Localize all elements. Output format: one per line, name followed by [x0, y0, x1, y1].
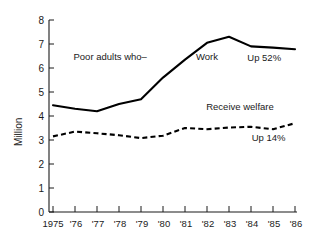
annotation-receive-welfare: Receive welfare: [206, 101, 274, 112]
chart-svg: Million 0 1 2 3 4 5 6 7 8: [0, 0, 312, 242]
y-tick-label-7: 7: [38, 39, 44, 50]
x-tick-label-1981: '81: [180, 218, 192, 229]
x-tick-label-1984: '84: [246, 218, 258, 229]
x-tick-label-1975: 1975: [42, 218, 63, 229]
y-tick-label-1: 1: [38, 183, 44, 194]
y-tick-label-4: 4: [38, 111, 44, 122]
x-tick-label-1977: '77: [92, 218, 104, 229]
y-tick-label-8: 8: [38, 15, 44, 26]
y-tick-label-3: 3: [38, 135, 44, 146]
line-chart: Million 0 1 2 3 4 5 6 7 8: [0, 0, 312, 242]
x-tick-label-1979: '79: [136, 218, 148, 229]
y-tick-label-6: 6: [38, 63, 44, 74]
annotation-up-52-percent: Up 52%: [247, 52, 281, 63]
y-axis-tick-labels: 0 1 2 3 4 5 6 7 8: [38, 15, 44, 218]
y-tick-label-0: 0: [38, 207, 44, 218]
y-tick-label-5: 5: [38, 87, 44, 98]
x-tick-label-1982: '82: [202, 218, 214, 229]
x-tick-label-1986: '86: [290, 218, 302, 229]
chart-background: [0, 0, 312, 242]
annotation-poor-adults-who: Poor adults who–: [73, 51, 147, 62]
annotation-work: Work: [196, 51, 218, 62]
y-axis-title: Million: [13, 118, 24, 146]
x-tick-label-1976: '76: [70, 218, 82, 229]
x-tick-label-1983: '83: [224, 218, 236, 229]
x-tick-label-1985: '85: [268, 218, 280, 229]
y-tick-label-2: 2: [38, 159, 44, 170]
annotation-up-14-percent: Up 14%: [252, 132, 286, 143]
x-tick-label-1978: '78: [114, 218, 126, 229]
x-tick-label-1980: '80: [158, 218, 170, 229]
